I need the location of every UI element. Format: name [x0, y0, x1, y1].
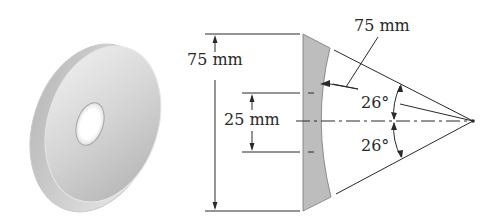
washer-3d-view	[9, 28, 180, 224]
lower-angle-label: 26°	[361, 138, 389, 154]
radius-dimension	[320, 37, 378, 89]
lower-radial-line	[336, 121, 473, 194]
outer-height-label: 75 mm	[187, 52, 243, 68]
inner-height-label: 25 mm	[224, 112, 280, 128]
radius-label: 75 mm	[354, 18, 410, 34]
upper-angle-label: 26°	[361, 95, 389, 111]
radius-leader-line	[400, 104, 473, 121]
upper-radial-line	[334, 50, 473, 121]
cross-section-profile	[303, 34, 331, 211]
